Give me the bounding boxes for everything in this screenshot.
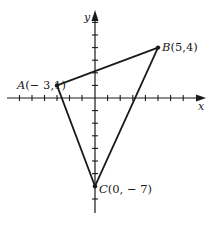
coordinate-plane: x y A(− 3,1) B(5,4) C(0, − 7) (0, 0, 212, 226)
x-axis-label: x (198, 100, 205, 113)
point-c (93, 184, 97, 188)
point-a-label: A(− 3,1) (16, 78, 66, 92)
point-c-label: C(0, − 7) (99, 182, 152, 196)
y-axis-label: y (83, 11, 91, 24)
triangle-abc (57, 48, 158, 187)
point-b-label: B(5,4) (161, 40, 198, 54)
y-axis-arrow-icon (92, 10, 99, 21)
x-axis (7, 95, 206, 102)
point-b (156, 45, 160, 49)
